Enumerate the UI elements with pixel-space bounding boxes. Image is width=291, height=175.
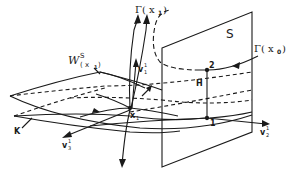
diagram-canvas: S Γ( x 1 ) Γ( x 0 ) W S ( x 1 ) v 1 1 v … (0, 0, 291, 175)
label-stable-manifold: W S ( x 1 ) (68, 52, 101, 70)
arrow-head-v3 (62, 131, 72, 138)
label-section-s: S (226, 27, 234, 41)
label-ws-sup: S (80, 52, 85, 60)
label-point-2: 2 (209, 61, 215, 70)
dashed-curve-2 (14, 88, 105, 116)
label-ws-arg-close: ) (98, 61, 101, 69)
arrow-head-gamma-down (119, 159, 126, 168)
stable-manifold-surface-top (10, 72, 162, 96)
k-leader-line (22, 118, 32, 128)
trajectory-gamma-x1-left (122, 18, 138, 165)
label-gamma-x0-main: Γ( x (254, 43, 274, 54)
label-v1-sup: 1 (144, 62, 147, 68)
diagram-svg: S Γ( x 1 ) Γ( x 0 ) W S ( x 1 ) v 1 1 v … (0, 0, 291, 175)
label-gamma-x1-close: ) (163, 4, 167, 15)
label-height-h: H (196, 79, 203, 88)
label-x1-sub: 1 (136, 115, 139, 121)
label-gamma-x0-sub: 0 (277, 48, 281, 55)
label-ws-arg: ( x (80, 61, 89, 69)
arrow-head-gamma-left (134, 14, 141, 24)
dashed-curve-3 (70, 97, 252, 103)
label-x1: x 1 (130, 111, 139, 121)
label-point-1: 1 (210, 119, 216, 128)
label-surface-k: K (14, 127, 21, 136)
point-x1-marker (128, 106, 131, 109)
label-gamma-x1-sub: 1 (158, 9, 162, 16)
label-gamma-x1-main: Γ( x (135, 4, 155, 15)
vector-v1 (132, 62, 136, 108)
trajectory-gamma-x0-dashed (153, 10, 200, 70)
label-v2-sup: 1 (266, 125, 269, 131)
arrow-head-gamma-right (143, 14, 150, 24)
label-v3-sup: 1 (68, 138, 71, 144)
dashed-curve-1 (10, 72, 252, 96)
label-gamma-x1: Γ( x 1 ) (135, 4, 167, 16)
label-v1-sub: 1 (144, 69, 147, 75)
label-v2: v 1 2 (260, 125, 269, 138)
label-v1: v 1 1 (138, 62, 147, 75)
label-gamma-x0-close: ) (282, 43, 286, 54)
label-v3: v 1 3 (62, 138, 71, 151)
arrow-head-gamma-x0 (232, 62, 240, 69)
curve-through-x1-back (96, 94, 130, 108)
dashed-curve-4 (130, 90, 252, 112)
label-v2-sub: 2 (266, 132, 269, 138)
label-v3-sub: 3 (68, 145, 71, 151)
label-gamma-x0: Γ( x 0 ) (254, 43, 286, 55)
vector-v2 (207, 118, 266, 124)
